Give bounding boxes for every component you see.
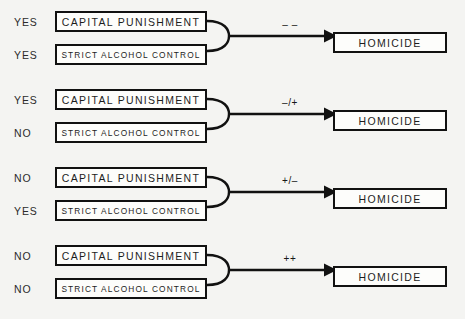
connector-and-arrow-1	[203, 6, 343, 76]
answer-top-group-1: YES	[14, 16, 50, 28]
diagram-group-4: NO NO CAPITAL PUNISHMENT STRICT ALCOHOL …	[0, 240, 465, 310]
cause-label: STRICT ALCOHOL CONTROL	[61, 50, 200, 60]
answer-top-group-3: NO	[14, 172, 50, 184]
cause-label: STRICT ALCOHOL CONTROL	[61, 128, 200, 138]
cause-box-capital-punishment-4: CAPITAL PUNISHMENT	[55, 245, 207, 266]
effect-box-homicide-3: HOMICIDE	[333, 188, 447, 209]
connector-and-arrow-2	[203, 84, 343, 154]
cause-label: CAPITAL PUNISHMENT	[62, 250, 200, 262]
cause-box-alcohol-control-4: STRICT ALCOHOL CONTROL	[55, 278, 207, 299]
answer-bottom-group-2: NO	[14, 127, 50, 139]
diagram-group-3: NO YES CAPITAL PUNISHMENT STRICT ALCOHOL…	[0, 162, 465, 232]
answer-top-group-4: NO	[14, 250, 50, 262]
diagram-group-1: YES YES CAPITAL PUNISHMENT STRICT ALCOHO…	[0, 6, 465, 76]
cause-box-capital-punishment-2: CAPITAL PUNISHMENT	[55, 89, 207, 110]
arrow-label-group-1: – –	[255, 19, 325, 30]
cause-box-capital-punishment-1: CAPITAL PUNISHMENT	[55, 11, 207, 32]
cause-box-alcohol-control-1: STRICT ALCOHOL CONTROL	[55, 44, 207, 65]
cause-label: CAPITAL PUNISHMENT	[62, 172, 200, 184]
cause-label: CAPITAL PUNISHMENT	[62, 94, 200, 106]
effect-box-homicide-2: HOMICIDE	[333, 110, 447, 131]
arrow-label-group-2: –/+	[255, 97, 325, 108]
causal-diagram: YES YES CAPITAL PUNISHMENT STRICT ALCOHO…	[0, 0, 465, 319]
effect-box-homicide-4: HOMICIDE	[333, 266, 447, 287]
cause-box-capital-punishment-3: CAPITAL PUNISHMENT	[55, 167, 207, 188]
cause-box-alcohol-control-2: STRICT ALCOHOL CONTROL	[55, 122, 207, 143]
cause-label: CAPITAL PUNISHMENT	[62, 16, 200, 28]
connector-and-arrow-3	[203, 162, 343, 232]
answer-bottom-group-1: YES	[14, 49, 50, 61]
connector-and-arrow-4	[203, 240, 343, 310]
effect-box-homicide-1: HOMICIDE	[333, 32, 447, 53]
effect-label: HOMICIDE	[359, 193, 422, 205]
diagram-group-2: YES NO CAPITAL PUNISHMENT STRICT ALCOHOL…	[0, 84, 465, 154]
answer-bottom-group-3: YES	[14, 205, 50, 217]
effect-label: HOMICIDE	[359, 115, 422, 127]
effect-label: HOMICIDE	[359, 271, 422, 283]
cause-box-alcohol-control-3: STRICT ALCOHOL CONTROL	[55, 200, 207, 221]
answer-bottom-group-4: NO	[14, 283, 50, 295]
cause-label: STRICT ALCOHOL CONTROL	[61, 284, 200, 294]
arrow-label-group-4: ++	[255, 253, 325, 264]
cause-label: STRICT ALCOHOL CONTROL	[61, 206, 200, 216]
answer-top-group-2: YES	[14, 94, 50, 106]
arrow-label-group-3: +/–	[255, 175, 325, 186]
effect-label: HOMICIDE	[359, 37, 422, 49]
